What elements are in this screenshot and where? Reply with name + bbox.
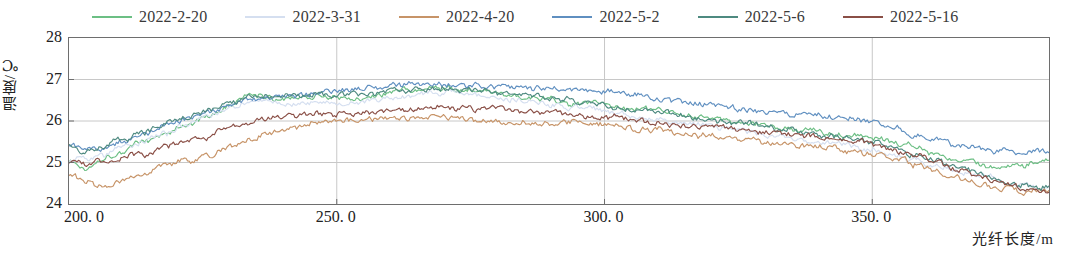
y-axis-title: 温度/℃ <box>2 55 24 111</box>
legend-label: 2022-5-6 <box>745 8 805 26</box>
series-line <box>69 87 1049 191</box>
legend-item[interactable]: 2022-5-2 <box>552 8 659 26</box>
y-axis-tick-label: 28 <box>32 29 62 45</box>
x-axis-tick-label: 300. 0 <box>584 208 624 226</box>
series-line <box>69 89 1049 191</box>
x-axis-tick-label: 350. 0 <box>851 208 891 226</box>
y-axis-tick-label: 25 <box>32 154 62 170</box>
x-axis-tick-label: 200. 0 <box>64 208 104 226</box>
legend-color-swatch <box>399 16 439 18</box>
y-axis-tick-labels: 2827262524 <box>28 37 62 205</box>
legend-color-swatch <box>245 16 285 18</box>
legend-color-swatch <box>843 16 883 18</box>
legend-label: 2022-2-20 <box>139 8 207 26</box>
chart-legend: 2022-2-202022-3-312022-4-202022-5-22022-… <box>0 4 1072 30</box>
legend-item[interactable]: 2022-5-16 <box>843 8 958 26</box>
legend-label: 2022-3-31 <box>292 8 360 26</box>
plot-area <box>68 37 1050 205</box>
x-axis-title: 光纤长度/m <box>972 230 1054 248</box>
legend-color-swatch <box>698 16 738 18</box>
series-line <box>69 82 1049 155</box>
legend-label: 2022-5-2 <box>599 8 659 26</box>
legend-item[interactable]: 2022-5-6 <box>698 8 805 26</box>
x-axis-tick-label: 250. 0 <box>316 208 356 226</box>
series-line <box>69 115 1049 196</box>
y-axis-tick-label: 24 <box>32 195 62 211</box>
legend-item[interactable]: 2022-4-20 <box>399 8 514 26</box>
chart-root: 2022-2-202022-3-312022-4-202022-5-22022-… <box>0 0 1072 255</box>
x-axis-tick-labels: 200. 0250. 0300. 0350. 0 <box>68 206 1050 230</box>
legend-label: 2022-4-20 <box>446 8 514 26</box>
y-axis-tick-label: 26 <box>32 112 62 128</box>
legend-color-swatch <box>552 16 592 18</box>
legend-color-swatch <box>92 16 132 18</box>
y-axis-tick-label: 27 <box>32 71 62 87</box>
legend-label: 2022-5-16 <box>890 8 958 26</box>
legend-item[interactable]: 2022-3-31 <box>245 8 360 26</box>
plot-svg <box>69 38 1049 204</box>
legend-item[interactable]: 2022-2-20 <box>92 8 207 26</box>
